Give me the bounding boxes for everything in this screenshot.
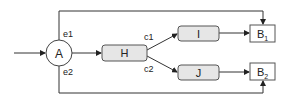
node-i: I [178, 26, 219, 41]
node-a-label: A [55, 47, 63, 61]
edge-label-c1: c1 [144, 32, 154, 42]
node-h-label: H [121, 47, 129, 59]
node-h: H [102, 45, 147, 61]
node-a: A [46, 40, 72, 66]
node-i-label: I [197, 28, 200, 40]
flow-diagram: A H I J B1 B2 e1 e2 c1 c2 [0, 0, 291, 102]
edge-label-e2: e2 [63, 67, 73, 77]
edge-a-to-b1 [59, 11, 263, 40]
node-j: J [178, 65, 219, 80]
edge-label-c2: c2 [144, 64, 154, 74]
node-j-label: J [196, 67, 202, 79]
edge-a-to-b2 [59, 66, 263, 93]
node-b2: B2 [250, 63, 275, 80]
edge-label-e1: e1 [63, 29, 73, 39]
node-b1: B1 [250, 25, 275, 42]
